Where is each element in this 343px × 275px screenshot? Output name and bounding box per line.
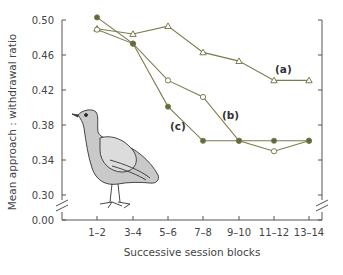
x-tick-label: 3–4 — [124, 227, 142, 238]
filled-circle-marker — [236, 138, 241, 143]
y-axis-break-left — [56, 200, 68, 211]
y-tick-label: 0.50 — [32, 15, 54, 26]
filled-circle-marker — [271, 138, 276, 143]
filled-circle-marker — [165, 104, 170, 109]
series-label-c: (c) — [170, 120, 186, 132]
series-label-a: (a) — [275, 63, 292, 75]
y-tick-label: 0.38 — [32, 120, 54, 131]
x-tick-label: 9–10 — [227, 227, 251, 238]
y-axis-break-right — [316, 200, 328, 211]
y-tick-label: 0.34 — [32, 155, 54, 166]
series-c — [94, 15, 311, 144]
series-label-b: (b) — [222, 109, 239, 121]
y-tick-label: 0.42 — [32, 85, 54, 96]
series-line — [97, 17, 309, 140]
y-tick-label: 0.46 — [32, 50, 54, 61]
line-chart: 0.500.460.420.380.340.300.00 1–23–45–67–… — [0, 0, 343, 275]
triangle-marker — [200, 49, 206, 55]
triangle-marker — [165, 23, 171, 29]
filled-circle-marker — [306, 138, 311, 143]
data-series — [94, 15, 312, 154]
x-tick-label: 7–8 — [194, 227, 212, 238]
x-axis-title: Successive session blocks — [124, 246, 261, 258]
y-tick-label: 0.00 — [32, 215, 54, 226]
pigeon-illustration — [72, 110, 159, 208]
filled-circle-marker — [200, 138, 205, 143]
x-tick-label: 13–14 — [294, 227, 324, 238]
x-tick-label: 11–12 — [259, 227, 289, 238]
filled-circle-marker — [130, 41, 135, 46]
open-circle-marker — [200, 94, 205, 99]
x-tick-label: 1–2 — [88, 227, 106, 238]
x-axis-ticks: 1–23–45–67–89–1011–1213–14 — [88, 216, 324, 238]
open-circle-marker — [94, 27, 99, 32]
y-tick-label: 0.30 — [32, 190, 54, 201]
axis-frame — [62, 20, 322, 220]
series-line — [97, 30, 309, 152]
series-b — [94, 27, 311, 154]
filled-circle-marker — [94, 15, 99, 20]
x-tick-label: 5–6 — [159, 227, 177, 238]
y-axis-title: Mean approach : withdrawal ratio — [6, 34, 18, 210]
open-circle-marker — [271, 149, 276, 154]
open-circle-marker — [165, 78, 170, 83]
